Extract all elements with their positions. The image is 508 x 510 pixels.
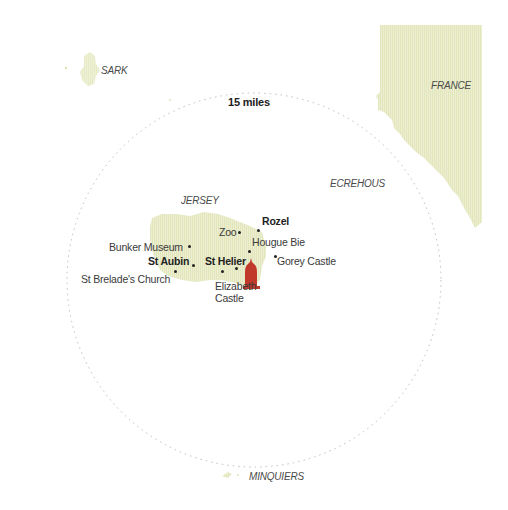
place-dot-st-brelades-church: [174, 270, 177, 273]
place-dot-zoo: [238, 231, 241, 234]
place-elizabeth-castle[interactable]: Elizabeth: [215, 280, 256, 292]
place-st-helier[interactable]: St Helier: [205, 255, 246, 267]
place-st-brelades-church[interactable]: St Brelade's Church: [81, 273, 170, 285]
map-canvas: [0, 0, 508, 510]
place-dot-st-aubin: [192, 264, 195, 267]
place-dot-bunker-museum: [188, 245, 191, 248]
region-label-france: FRANCE: [431, 80, 471, 92]
region-label-jersey: JERSEY: [181, 195, 219, 207]
place-dot-st-helier: [235, 267, 238, 270]
radius-label: 15 miles: [228, 96, 270, 108]
sark-island: [80, 52, 100, 86]
minquiers-islets: [222, 472, 232, 478]
place-dot-gorey-castle: [274, 255, 277, 258]
region-label-ecrehous: ECREHOUS: [330, 178, 385, 190]
place-dot-elizabeth-castle: [221, 270, 224, 273]
place-st-aubin[interactable]: St Aubin: [148, 255, 189, 267]
france-landmass: [376, 25, 482, 228]
place-dot-hougue-bie: [248, 250, 251, 253]
place-gorey-castle[interactable]: Gorey Castle: [277, 255, 336, 267]
region-label-minquiers: MINQUIERS: [249, 471, 304, 483]
place-zoo[interactable]: Zoo: [219, 226, 237, 238]
place-dot-rozel: [257, 229, 260, 232]
place-rozel[interactable]: Rozel: [262, 215, 289, 227]
place-hougue-bie[interactable]: Hougue Bie: [252, 236, 305, 248]
region-label-sark: SARK: [101, 65, 127, 77]
place-elizabeth-castle-line2[interactable]: Castle: [215, 292, 244, 304]
place-bunker-museum[interactable]: Bunker Museum: [109, 241, 183, 253]
